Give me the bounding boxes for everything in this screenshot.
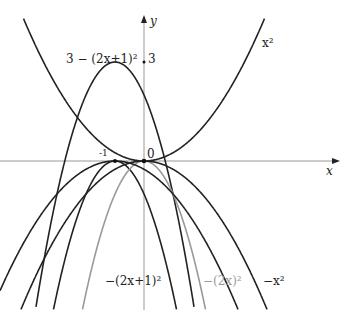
label-neg-x-squared: −x² [263,274,285,288]
plot-area [0,0,352,325]
tick-half-num: 1 [102,148,108,158]
x-axis-label: x [326,164,333,178]
origin-point [142,159,147,164]
y-axis-arrow-icon [141,15,147,23]
tick-half-label: -1 [99,148,108,158]
tick-zero-label: 0 [147,147,155,161]
half-point [113,159,117,163]
label-neg-2x-plus-1-squared: −(2x+1)² [105,274,161,288]
label-neg-2x-squared: −(2x)² [203,274,242,288]
y-axis-label: y [150,14,157,28]
x-axis-arrow-icon [332,158,340,164]
label-3-minus-2x-plus-1-squared: 3 − (2x+1)² [66,52,138,66]
tick-three-point [143,61,146,64]
curve-3-2x-1-2 [36,62,194,307]
tick-three-label: 3 [148,52,156,66]
label-x-squared: x² [262,36,274,50]
